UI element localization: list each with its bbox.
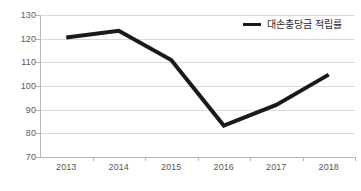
x-tick-mark xyxy=(250,157,251,161)
x-tick-mark xyxy=(303,157,304,161)
y-tick-mark xyxy=(36,157,40,158)
x-tick-mark xyxy=(355,157,356,161)
legend-label: 대손충당금 적립률 xyxy=(267,19,342,30)
x-tick-mark xyxy=(93,157,94,161)
x-tick-mark xyxy=(198,157,199,161)
legend: 대손충당금 적립률 xyxy=(243,19,342,30)
line-chart: 130120110100908070 201320142015201620172… xyxy=(0,0,361,191)
y-tick-mark xyxy=(36,133,40,134)
series-line-bad-debt-ratio xyxy=(66,31,329,126)
y-tick-mark xyxy=(36,62,40,63)
y-tick-mark xyxy=(36,39,40,40)
y-tick-mark xyxy=(36,15,40,16)
x-tick-mark xyxy=(145,157,146,161)
y-tick-mark xyxy=(36,86,40,87)
legend-line-swatch xyxy=(243,23,261,26)
y-tick-mark xyxy=(36,110,40,111)
